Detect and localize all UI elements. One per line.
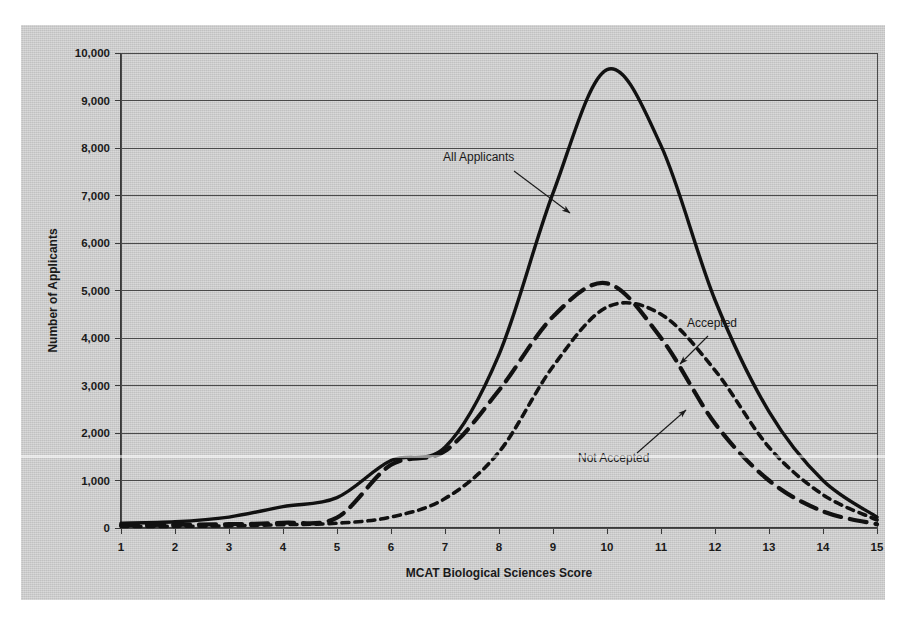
x-tick-label: 2: [172, 541, 178, 553]
x-tick-label: 4: [280, 541, 287, 553]
x-tick-label: 15: [871, 541, 884, 553]
y-tick-label: 0: [104, 522, 110, 534]
x-tick-label: 11: [655, 541, 668, 553]
annotation-label-all-applicants: All Applicants: [443, 150, 514, 164]
y-tick-label: 5,000: [81, 285, 110, 297]
annotation-arrow-not-accepted: [637, 410, 686, 453]
annotation-label-accepted: Accepted: [687, 316, 737, 330]
mcat-score-distribution-chart: 01,0002,0003,0004,0005,0006,0007,0008,00…: [21, 25, 885, 600]
x-tick-label: 9: [550, 541, 556, 553]
y-tick-label: 7,000: [81, 190, 110, 202]
annotation-arrow-all-applicants: [514, 171, 570, 213]
gridlines: [121, 53, 877, 528]
x-axis-tick-marks: [121, 528, 877, 534]
x-tick-label: 5: [334, 541, 341, 553]
x-tick-label: 10: [601, 541, 614, 553]
y-tick-label: 3,000: [81, 380, 110, 392]
series-annotations: All ApplicantsAcceptedNot Accepted: [443, 150, 737, 465]
x-tick-label: 6: [388, 541, 394, 553]
y-tick-label: 2,000: [81, 427, 110, 439]
x-axis-title: MCAT Biological Sciences Score: [406, 566, 593, 580]
y-tick-label: 8,000: [81, 142, 110, 154]
x-tick-label: 13: [763, 541, 776, 553]
y-tick-label: 4,000: [81, 332, 110, 344]
x-tick-label: 8: [496, 541, 503, 553]
y-tick-label: 10,000: [75, 47, 110, 59]
x-tick-label: 3: [226, 541, 232, 553]
y-axis-title: Number of Applicants: [46, 228, 60, 353]
y-tick-label: 6,000: [81, 237, 110, 249]
x-tick-label: 14: [817, 541, 830, 553]
y-tick-label: 1,000: [81, 475, 110, 487]
x-tick-label: 12: [709, 541, 722, 553]
series-curve-not-accepted: [121, 303, 877, 527]
x-tick-label: 7: [442, 541, 448, 553]
y-axis-tick-marks: [115, 53, 121, 528]
annotation-label-not-accepted: Not Accepted: [578, 451, 649, 465]
x-tick-label: 1: [118, 541, 125, 553]
annotation-arrow-accepted: [680, 336, 708, 364]
y-tick-label: 9,000: [81, 95, 110, 107]
series-curves: [121, 69, 877, 527]
x-axis-tick-labels: 123456789101112131415: [118, 541, 884, 553]
y-axis-tick-labels: 01,0002,0003,0004,0005,0006,0007,0008,00…: [75, 47, 110, 534]
chart-screenshot: 01,0002,0003,0004,0005,0006,0007,0008,00…: [0, 0, 903, 623]
series-curve-all-applicants: [121, 69, 877, 524]
chart-plate: 01,0002,0003,0004,0005,0006,0007,0008,00…: [21, 25, 885, 600]
